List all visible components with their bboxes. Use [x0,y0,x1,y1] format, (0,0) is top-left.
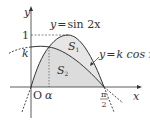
y-axis-label: y [23,6,31,19]
x-tick-pi: π [101,90,106,99]
sine-curve-ext-left [22,87,31,112]
cosine-label: y=k cos x [98,48,150,61]
y-tick-one: 1 [22,29,29,42]
y-tick-k: k [22,47,29,60]
x-tick-alpha: α [45,89,53,102]
origin-label: O [33,89,42,102]
sine-label: y=sin 2x [49,18,101,31]
math-diagram: y x O 1 k α π 2 y=sin 2x y=k cos x S1 S2 [0,0,150,122]
x-tick-two: 2 [102,100,107,109]
x-axis-arrow-icon [137,85,142,89]
x-axis-label: x [133,90,140,103]
